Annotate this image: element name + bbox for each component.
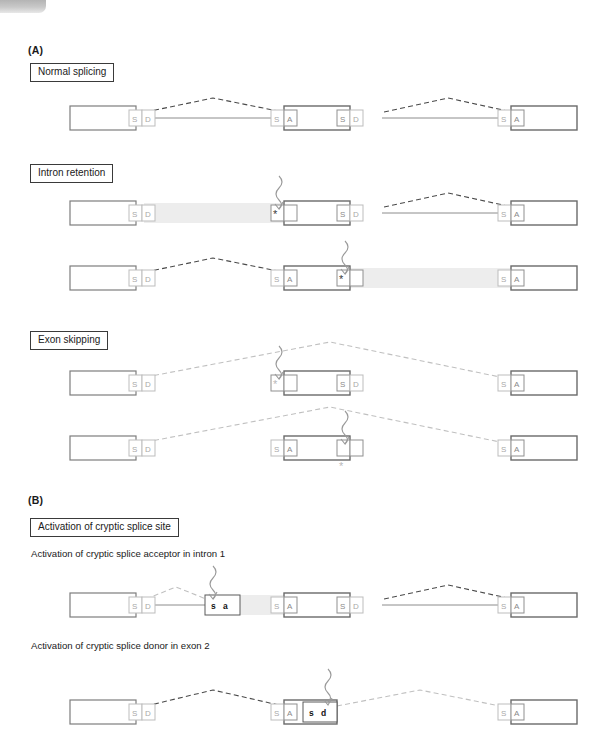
- splice-acceptor-exon2: S A: [271, 704, 297, 720]
- row-cryptic-donor: S D S A s d S A: [70, 669, 577, 724]
- site-label-s: S: [132, 115, 137, 124]
- site-label-s: S: [501, 445, 506, 454]
- figure-caption-strip: [0, 743, 609, 753]
- site-label-d: D: [145, 210, 151, 219]
- splice-donor-exon1: S D: [129, 704, 155, 720]
- mutation-pointer-5: [209, 566, 217, 599]
- mutation-star: *: [273, 378, 278, 390]
- splice-donor-exon2: S D: [337, 375, 363, 391]
- site-label-a: A: [514, 709, 520, 718]
- row-exon-skipping-2: S D S A * S A: [70, 407, 577, 472]
- row-normal-splicing: S D S A S D S A: [70, 98, 577, 130]
- splice-acceptor-exon3: S A: [498, 597, 524, 613]
- site-label-s: S: [132, 445, 137, 454]
- site-label-a: A: [514, 602, 520, 611]
- site-label-s: S: [274, 275, 279, 284]
- splice-acceptor-exon2: S A: [271, 270, 297, 286]
- site-label-d: D: [145, 380, 151, 389]
- cryptic-label-d: d: [321, 708, 326, 718]
- splice-acceptor-exon2: S A: [271, 110, 297, 126]
- mutated-splice-acceptor-exon2: *: [271, 375, 297, 391]
- site-label-s: S: [274, 709, 279, 718]
- splice-donor-exon1: S D: [129, 597, 155, 613]
- site-label-d: D: [353, 380, 359, 389]
- splice-acceptor-exon3: S A: [498, 270, 524, 286]
- site-label-a: A: [287, 602, 293, 611]
- site-label-s: S: [132, 210, 137, 219]
- site-label-a: A: [514, 275, 520, 284]
- site-label-a: A: [514, 115, 520, 124]
- row-intron-retention-1: S D * S D S A: [70, 176, 577, 225]
- cryptic-splice-acceptor: s a: [205, 595, 240, 615]
- site-label-a: A: [287, 445, 293, 454]
- site-label-s: S: [501, 380, 506, 389]
- site-label-s: S: [501, 709, 506, 718]
- row-exon-skipping-1: S D * S D S A: [70, 342, 577, 395]
- splice-donor-exon1: S D: [129, 440, 155, 456]
- cryptic-label-s: s: [211, 601, 216, 611]
- site-label-a: A: [287, 115, 293, 124]
- site-label-s: S: [501, 115, 506, 124]
- mutated-splice-acceptor-exon2: *: [271, 205, 297, 221]
- site-label-s: S: [274, 602, 279, 611]
- site-label-s: S: [132, 709, 137, 718]
- site-label-d: D: [145, 602, 151, 611]
- splice-acceptor-exon2: S A: [271, 597, 297, 613]
- mutation-star: *: [273, 208, 278, 220]
- retained-intron-band: [350, 268, 511, 288]
- site-label-s: S: [501, 210, 506, 219]
- site-label-d: D: [353, 210, 359, 219]
- site-label-a: A: [287, 275, 293, 284]
- cryptic-splice-donor: s d: [303, 702, 337, 722]
- mutation-star: *: [339, 273, 344, 285]
- splice-acceptor-exon3: S A: [498, 704, 524, 720]
- site-label-d: D: [145, 275, 151, 284]
- mutated-splice-donor-exon2: *: [337, 440, 363, 472]
- site-label-d: D: [145, 709, 151, 718]
- cryptic-label-a: a: [223, 601, 228, 611]
- cryptic-label-s: s: [309, 708, 314, 718]
- site-label-s: S: [340, 602, 345, 611]
- site-label-s: S: [340, 210, 345, 219]
- splicing-diagram: S D S A S D S A: [0, 0, 609, 753]
- site-label-a: A: [514, 445, 520, 454]
- row-cryptic-acceptor: S D s a S A S D S A: [70, 566, 577, 617]
- retained-intron-band: [144, 203, 285, 223]
- splice-donor-exon1: S D: [129, 375, 155, 391]
- mutation-pointer-3: [275, 346, 283, 379]
- row-intron-retention-2: S D S A * S A: [70, 241, 577, 290]
- site-label-s: S: [340, 115, 345, 124]
- splice-donor-exon1: S D: [129, 110, 155, 126]
- mutated-splice-donor-exon2: *: [337, 270, 363, 286]
- splice-donor-exon2: S D: [337, 110, 363, 126]
- site-label-s: S: [501, 602, 506, 611]
- site-label-d: D: [145, 115, 151, 124]
- mutation-star: *: [339, 460, 344, 472]
- site-label-s: S: [274, 115, 279, 124]
- site-label-a: A: [514, 380, 520, 389]
- splice-acceptor-exon3: S A: [498, 205, 524, 221]
- site-label-s: S: [132, 602, 137, 611]
- site-label-d: D: [145, 445, 151, 454]
- splice-acceptor-exon3: S A: [498, 110, 524, 126]
- site-label-s: S: [132, 380, 137, 389]
- site-label-a: A: [287, 709, 293, 718]
- site-label-s: S: [274, 445, 279, 454]
- splice-acceptor-exon2: S A: [271, 440, 297, 456]
- site-label-d: D: [353, 602, 359, 611]
- splice-acceptor-exon3: S A: [498, 375, 524, 391]
- site-label-s: S: [132, 275, 137, 284]
- splice-donor-exon1: S D: [129, 205, 155, 221]
- site-label-s: S: [501, 275, 506, 284]
- site-label-d: D: [353, 115, 359, 124]
- splice-donor-exon2: S D: [337, 597, 363, 613]
- site-label-a: A: [514, 210, 520, 219]
- site-label-s: S: [340, 380, 345, 389]
- splice-donor-exon1: S D: [129, 270, 155, 286]
- splice-donor-exon2: S D: [337, 205, 363, 221]
- splice-acceptor-exon3: S A: [498, 440, 524, 456]
